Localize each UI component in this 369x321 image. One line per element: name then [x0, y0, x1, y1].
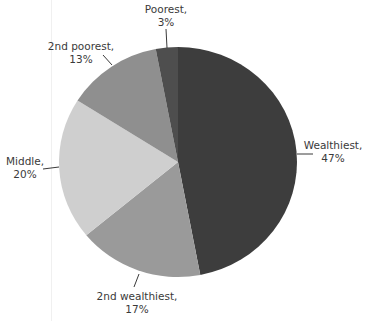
pie-slice-wealthiest — [178, 47, 297, 275]
label-poorest-pct: 3% — [141, 16, 191, 29]
label-2nd-poorest-name: 2nd poorest, — [46, 40, 116, 53]
label-wealthiest-name: Wealthiest, — [297, 139, 369, 152]
label-2nd-wealthiest: 2nd wealthiest, 17% — [84, 290, 190, 316]
leader-line-poorest — [166, 29, 167, 48]
label-poorest-name: Poorest, — [141, 3, 191, 16]
label-wealthiest-pct: 47% — [297, 152, 369, 165]
label-2nd-poorest: 2nd poorest, 13% — [46, 40, 116, 66]
pie-slices — [59, 47, 297, 277]
label-2nd-wealthiest-name: 2nd wealthiest, — [84, 290, 190, 303]
label-wealthiest: Wealthiest, 47% — [297, 139, 369, 165]
leader-line-2nd-wealthiest — [134, 274, 139, 287]
label-middle-name: Middle, — [2, 155, 48, 168]
label-2nd-wealthiest-pct: 17% — [84, 303, 190, 316]
label-2nd-poorest-pct: 13% — [46, 53, 116, 66]
label-middle: Middle, 20% — [2, 155, 48, 181]
label-poorest: Poorest, 3% — [141, 3, 191, 29]
label-middle-pct: 20% — [2, 168, 48, 181]
